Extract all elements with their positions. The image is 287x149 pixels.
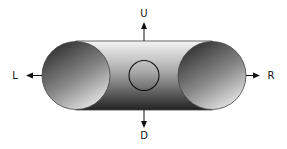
label-right: R — [265, 71, 277, 81]
left-arrow-icon — [26, 73, 42, 79]
label-up: U — [138, 9, 150, 19]
down-arrow-icon — [141, 110, 147, 128]
label-down: D — [138, 131, 150, 141]
right-arrow-icon — [246, 73, 260, 79]
label-left: L — [9, 71, 21, 81]
up-arrow-icon — [141, 22, 147, 41]
right-end-disc — [178, 42, 246, 110]
left-end-disc — [42, 42, 110, 110]
capsule-direction-diagram — [0, 0, 287, 149]
